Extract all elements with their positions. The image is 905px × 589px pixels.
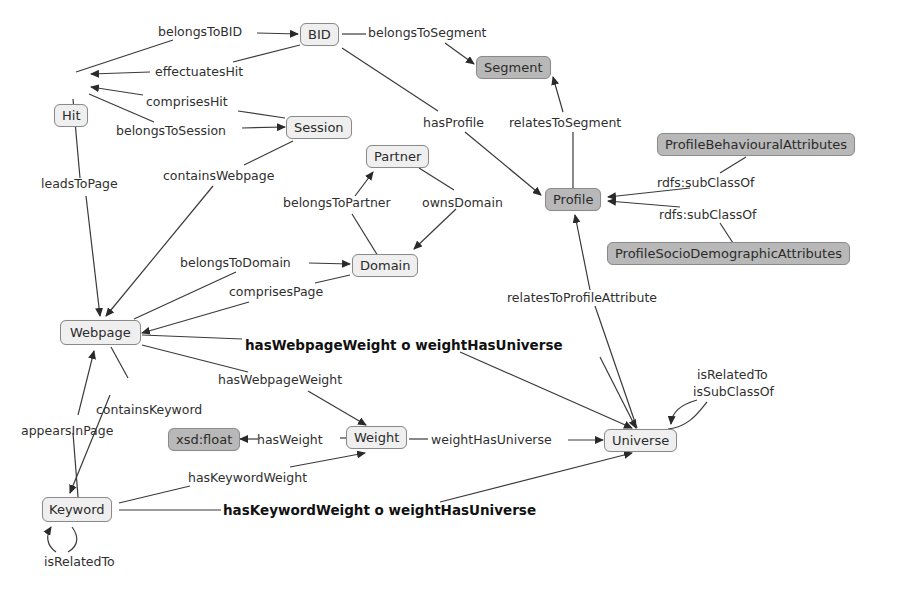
edge-label-owns-domain: ownsDomain	[422, 195, 503, 210]
edge-label-has-profile: hasProfile	[423, 115, 484, 130]
edge-label-is-related-to-universe: isRelatedTo	[697, 367, 768, 382]
edge-label-relates-to-profile-attribute: relatesToProfileAttribute	[507, 290, 657, 305]
edge-label-has-weight: hasWeight	[257, 432, 323, 447]
edge-label-comprises-page: comprisesPage	[229, 284, 323, 299]
edge-label-leads-to-page: leadsToPage	[41, 176, 118, 191]
edge-lines	[0, 0, 905, 589]
node-xsd-float[interactable]: xsd:float	[168, 428, 240, 451]
edge-label-rdfs-subclassof-behavioural: rdfs:subClassOf	[657, 175, 754, 190]
edge-label-is-related-to-keyword: isRelatedTo	[44, 554, 115, 569]
edge-label-relates-to-segment: relatesToSegment	[509, 115, 621, 130]
edge-label-appears-in-page: appearsInPage	[21, 423, 113, 438]
edge-label-is-subclass-of-universe: isSubClassOf	[693, 384, 774, 399]
node-profile-behavioural-attributes[interactable]: ProfileBehaviouralAttributes	[657, 133, 855, 156]
node-session[interactable]: Session	[286, 116, 352, 139]
edge-label-has-keyword-weight: hasKeywordWeight	[188, 470, 307, 485]
node-bid[interactable]: BID	[300, 23, 339, 46]
node-partner[interactable]: Partner	[366, 145, 429, 168]
edge-label-weight-has-universe: weightHasUniverse	[431, 432, 552, 447]
edge-label-belongs-to-segment: belongsToSegment	[368, 25, 487, 40]
node-webpage[interactable]: Webpage	[60, 320, 141, 345]
node-profile-sociodemographic-attributes[interactable]: ProfileSocioDemographicAttributes	[607, 242, 850, 265]
edge-label-rdfs-subclassof-sociodemographic: rdfs:subClassOf	[659, 207, 756, 222]
edge-label-belongs-to-session: belongsToSession	[116, 123, 226, 138]
node-hit[interactable]: Hit	[54, 104, 88, 127]
diagram-canvas: Hit BID Segment Session Partner Profile …	[0, 0, 905, 589]
edge-label-keyword-weight-chain: hasKeywordWeight o weightHasUniverse	[223, 503, 536, 518]
edge-label-belongs-to-bid: belongsToBID	[158, 24, 242, 39]
node-keyword[interactable]: Keyword	[42, 497, 112, 522]
node-universe[interactable]: Universe	[604, 429, 677, 452]
edge-label-effectuates-hit: effectuatesHit	[155, 64, 243, 79]
edge-label-contains-keyword: containsKeyword	[96, 402, 202, 417]
node-segment[interactable]: Segment	[476, 56, 551, 79]
edge-label-belongs-to-partner: belongsToPartner	[283, 195, 391, 210]
node-profile[interactable]: Profile	[545, 188, 601, 211]
node-weight[interactable]: Weight	[346, 426, 407, 449]
edge-label-has-webpage-weight: hasWebpageWeight	[218, 372, 342, 387]
edge-label-comprises-hit: comprisesHit	[146, 94, 228, 109]
node-domain[interactable]: Domain	[352, 254, 418, 277]
edge-label-belongs-to-domain: belongsToDomain	[180, 255, 291, 270]
edge-label-webpage-weight-chain: hasWebpageWeight o weightHasUniverse	[245, 338, 563, 353]
edge-label-contains-webpage: containsWebpage	[163, 168, 274, 183]
